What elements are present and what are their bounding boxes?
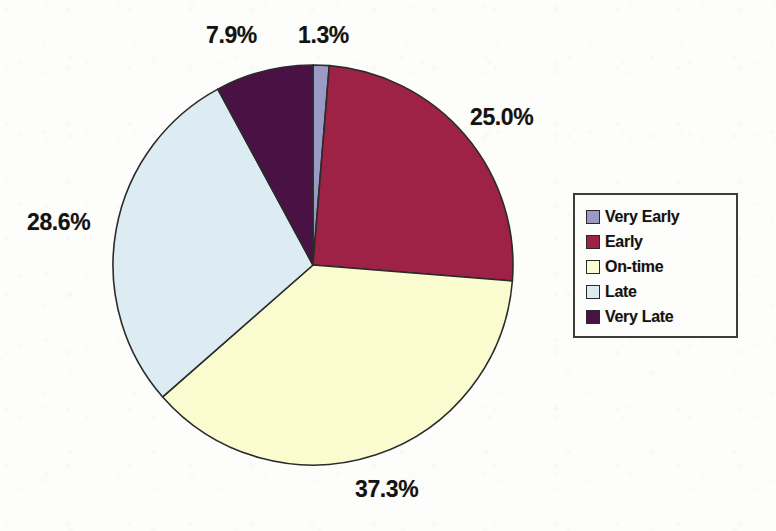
legend-item-label: Very Early xyxy=(605,208,679,226)
legend-item-very-early[interactable]: Very Early xyxy=(586,204,728,229)
chart-legend: Very EarlyEarlyOn-timeLateVery Late xyxy=(573,193,738,338)
pie-percentage-label: 28.6% xyxy=(27,209,90,236)
legend-swatch-icon xyxy=(586,285,600,299)
legend-item-early[interactable]: Early xyxy=(586,229,728,254)
legend-swatch-icon xyxy=(586,210,600,224)
pie-percentage-label: 1.3% xyxy=(298,22,349,49)
pie-percentage-label: 7.9% xyxy=(206,22,257,49)
pie-slice-early[interactable]: Early 25.0% xyxy=(313,66,513,281)
legend-item-very-late[interactable]: Very Late xyxy=(586,304,728,329)
pie-chart-figure: Very Early 1.3%Early 25.0%On-time 37.3%L… xyxy=(0,0,776,531)
legend-item-label: Late xyxy=(605,283,637,301)
legend-item-late[interactable]: Late xyxy=(586,279,728,304)
legend-swatch-icon xyxy=(586,235,600,249)
legend-item-label: On-time xyxy=(605,258,663,276)
legend-swatch-icon xyxy=(586,310,600,324)
legend-item-on-time[interactable]: On-time xyxy=(586,254,728,279)
pie-slice-group: Very Early 1.3%Early 25.0%On-time 37.3%L… xyxy=(113,65,513,465)
pie-percentage-label: 37.3% xyxy=(355,476,418,503)
legend-swatch-icon xyxy=(586,260,600,274)
legend-item-label: Early xyxy=(605,233,643,251)
pie-percentage-label: 25.0% xyxy=(470,104,533,131)
legend-item-label: Very Late xyxy=(605,308,673,326)
